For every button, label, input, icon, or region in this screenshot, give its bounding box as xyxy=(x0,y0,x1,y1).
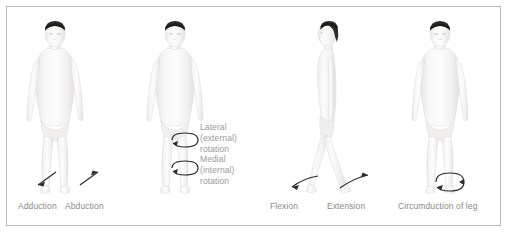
lateral-rotation-arrow xyxy=(172,133,198,147)
abduction-arrow xyxy=(80,171,98,186)
body-lateral xyxy=(300,18,370,196)
label-lateral-line1: Lateral xyxy=(200,122,237,133)
rotation-textblock: Lateral (external) rotation Medial (inte… xyxy=(200,122,237,187)
label-medial-line3: rotation xyxy=(200,176,237,187)
label-medial-line1: Medial xyxy=(200,154,237,165)
label-lateral-line2: (external) xyxy=(200,133,237,144)
figure-flexion-extension xyxy=(300,18,370,196)
flexion-extension-arrows xyxy=(288,172,388,198)
anatomy-plate: Adduction Abduction xyxy=(0,0,510,237)
caption-abduction: Abduction xyxy=(65,202,104,211)
adduction-arrow xyxy=(38,172,56,187)
medial-rotation-arrow xyxy=(172,161,198,175)
caption-flexion: Flexion xyxy=(270,202,298,211)
body-outline xyxy=(307,21,351,193)
label-lateral-line3: rotation xyxy=(200,144,237,155)
flexion-arrow xyxy=(292,176,318,190)
caption-circumduction: Circumduction of leg xyxy=(398,202,477,211)
caption-extension: Extension xyxy=(327,202,365,211)
circumduction-arrow xyxy=(424,166,476,198)
caption-adduction: Adduction xyxy=(18,202,57,211)
label-medial-line2: (internal) xyxy=(200,165,237,176)
adduction-abduction-arrows xyxy=(32,168,112,194)
extension-arrow xyxy=(340,173,368,189)
